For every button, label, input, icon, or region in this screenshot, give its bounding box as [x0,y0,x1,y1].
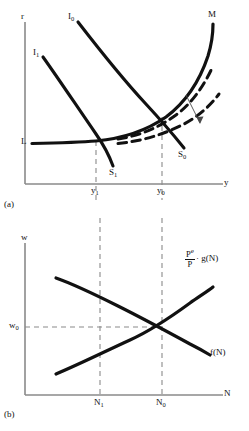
curve-label-l: L [21,137,27,146]
panel-a-y-axis-label: r [21,12,24,21]
curve-label-labor-supply: Pe P · g(N) [185,248,218,269]
panel-a-x-axis-label: y [224,178,229,187]
panel-a-caption: (a) [4,199,14,209]
labor-supply-numerator: Pe [185,248,195,259]
panel-b-guides [25,218,162,395]
curve-label-s1: S1 [109,168,117,177]
curve-labor-demand [56,278,210,355]
panel-a-curves [32,22,219,166]
figure-svg [0,0,249,431]
curve-labor-supply [56,287,213,374]
panel-b-x-axis-label: N [224,389,231,398]
curve-label-s0: S0 [178,150,186,159]
tick-label-y0: y0 [157,186,165,195]
labor-supply-denominator: P [187,260,194,269]
curve-label-i0: I0 [68,12,74,21]
curve-label-i1: I1 [33,48,39,57]
panel-b-caption: (b) [4,409,15,419]
curve-label-m: M [208,10,216,19]
tick-label-y1: y1 [91,186,99,195]
tick-label-n1: N1 [94,398,104,407]
tick-label-n0: N0 [156,398,166,407]
labor-supply-fraction: Pe P [185,248,195,269]
economics-figure: r y I0 I1 M L S0 S1 y1 y0 (a) w N w0 N1 … [0,0,249,431]
curve-label-labor-demand: f(N) [210,348,226,357]
shift-arrow-head [197,117,204,125]
panel-a-axes [25,22,223,184]
panel-b-y-axis-label: w [21,233,28,242]
curve-i1 [43,57,113,166]
panel-b-curves [56,278,213,374]
tick-label-w0: w0 [9,321,19,330]
labor-supply-tail: · g(N) [196,253,218,263]
curve-l-m [32,24,213,144]
